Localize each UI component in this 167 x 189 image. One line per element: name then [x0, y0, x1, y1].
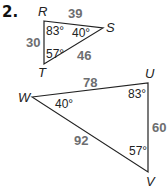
angle-t: 57°	[46, 47, 64, 61]
angle-w: 40°	[55, 97, 73, 111]
side-wu: 78	[83, 75, 97, 90]
side-rs: 39	[68, 6, 82, 21]
vertex-s: S	[106, 20, 115, 35]
vertex-r: R	[38, 4, 47, 19]
angle-v: 57°	[129, 144, 147, 158]
angle-r: 83°	[46, 24, 64, 38]
vertex-t: T	[38, 65, 47, 80]
angle-s: 40°	[72, 26, 90, 40]
vertex-u: U	[145, 66, 155, 81]
angle-u: 83°	[128, 87, 146, 101]
side-wv: 92	[74, 133, 88, 148]
side-uv: 60	[152, 120, 166, 135]
side-st: 46	[77, 48, 91, 63]
side-rt: 30	[26, 35, 40, 50]
vertex-v: V	[146, 174, 156, 189]
problem-number: 2.	[2, 3, 18, 21]
triangle-diagram: 2. R S T 39 30 46 83° 40° 57° U W V 78 6…	[0, 0, 167, 189]
vertex-w: W	[18, 90, 32, 105]
